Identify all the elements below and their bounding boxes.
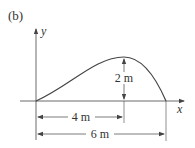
panel-label: (b) bbox=[8, 8, 23, 23]
dim-4m-label: 4 m bbox=[72, 110, 91, 124]
diagram: (b) y x 2 m 4 m 6 m bbox=[0, 0, 195, 148]
dim-6m-label: 6 m bbox=[91, 127, 110, 141]
x-axis-label: x bbox=[176, 102, 183, 116]
y-axis-label: y bbox=[40, 24, 47, 38]
curve bbox=[36, 57, 166, 101]
height-label: 2 m bbox=[115, 71, 134, 85]
